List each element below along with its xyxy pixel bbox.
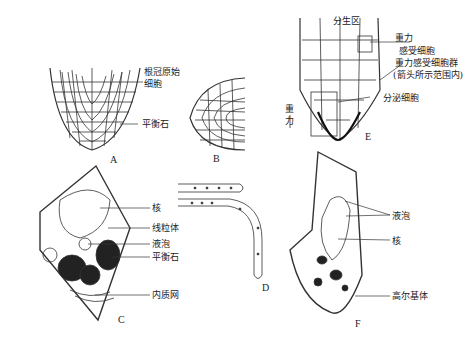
panel-b-root-tip-drawing: [190, 78, 245, 150]
label-gravity-sensing-group: 重力感受细胞群: [395, 58, 458, 68]
panel-d-bent-root-drawing: [178, 184, 262, 279]
panel-f-cell-drawing: [290, 152, 362, 313]
panel-label-f: F: [355, 318, 361, 329]
label-er: 内质网: [152, 290, 179, 300]
label-vacuole-c: 液泡: [152, 239, 170, 249]
label-nucleus-c: 核: [152, 203, 161, 213]
panel-c-cell-drawing: [40, 166, 130, 320]
label-gravity-sensing-cell: 感受细胞: [399, 46, 435, 56]
label-nucleus-f: 核: [392, 236, 401, 246]
label-root-cap-initial-cell: 细胞: [144, 79, 162, 89]
panel-label-d: D: [262, 282, 269, 293]
label-statolith-a: 平衡石: [142, 119, 169, 129]
label-statolith-c: 平衡石: [152, 252, 179, 262]
label-root-cap-initial: 根冠原始: [144, 67, 180, 77]
label-secretory-cell: 分泌细胞: [383, 93, 419, 103]
panel-e-root-cap-cells-drawing: [290, 18, 380, 140]
label-gravity-arrow-1: 重: [285, 104, 294, 114]
label-gravity-arrow-2: 力: [285, 116, 294, 126]
panel-label-a: A: [110, 154, 117, 165]
label-vacuole-f: 液泡: [392, 211, 410, 221]
panel-label-b: B: [213, 153, 220, 164]
label-gravity: 重力: [395, 33, 413, 43]
panel-a-root-cap-drawing: [50, 68, 140, 150]
label-mitochondria: 线粒体: [152, 223, 179, 233]
label-arrow-range-note: (箭头所示范围内): [393, 70, 463, 80]
label-meristem: 分生区: [333, 16, 360, 26]
panel-label-c: C: [118, 314, 125, 325]
panel-label-e: E: [365, 131, 371, 142]
label-golgi: 高尔基体: [392, 291, 428, 301]
